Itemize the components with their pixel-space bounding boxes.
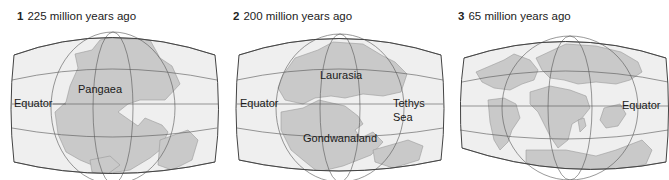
map-panel-200mya: 2200 million years ago Laurasia Equator … (223, 0, 446, 180)
label-sea: Sea (393, 111, 413, 123)
map-panel-225mya: 1225 million years ago Pangaea Equator (0, 0, 223, 180)
label-equator: Equator (14, 97, 53, 109)
label-gondwanaland: Gondwanaland (303, 132, 377, 144)
world-map-pangaea: Pangaea Equator (0, 0, 223, 180)
world-map-late-cretaceous: Equator (446, 0, 669, 180)
map-panel-65mya: 365 million years ago Equator (446, 0, 669, 180)
label-pangaea: Pangaea (78, 83, 123, 95)
label-equator: Equator (240, 97, 279, 109)
world-map-laurasia-gondwanaland: Laurasia Equator Tethys Sea Gondwanaland (223, 0, 446, 180)
label-laurasia: Laurasia (320, 69, 363, 81)
label-tethys: Tethys (393, 97, 425, 109)
label-equator: Equator (622, 99, 661, 111)
